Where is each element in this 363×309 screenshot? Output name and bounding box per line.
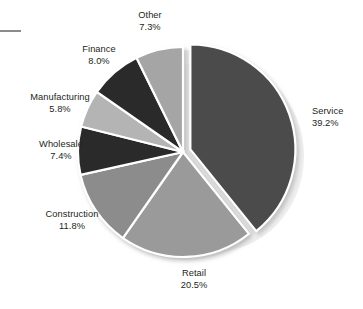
pie-label-other: Other 7.3%: [113, 10, 187, 33]
pie-label-other-name: Other: [113, 10, 187, 22]
pie-label-retail-name: Retail: [158, 268, 230, 280]
pie-label-service-name: Service: [312, 106, 362, 118]
pie-label-service-value: 39.2%: [312, 118, 362, 130]
pie-label-wholesale-value: 7.4%: [20, 151, 102, 163]
pie-chart: Other 7.3% Finance 8.0% Manufacturing 5.…: [0, 0, 363, 309]
pie-label-finance-value: 8.0%: [62, 56, 136, 68]
pie-label-retail-value: 20.5%: [158, 280, 230, 292]
pie-label-wholesale: Wholesale 7.4%: [20, 139, 102, 162]
pie-label-finance: Finance 8.0%: [62, 44, 136, 67]
pie-label-wholesale-name: Wholesale: [20, 139, 102, 151]
pie-label-manufacturing-value: 5.8%: [8, 104, 112, 116]
pie-label-construction-name: Construction: [26, 209, 118, 221]
pie-label-finance-name: Finance: [62, 44, 136, 56]
pie-label-manufacturing: Manufacturing 5.8%: [8, 92, 112, 115]
pie-label-construction: Construction 11.8%: [26, 209, 118, 232]
pie-label-service: Service 39.2%: [312, 106, 362, 129]
pie-label-other-value: 7.3%: [113, 22, 187, 34]
pie-label-retail: Retail 20.5%: [158, 268, 230, 291]
pie-label-manufacturing-name: Manufacturing: [8, 92, 112, 104]
pie-label-construction-value: 11.8%: [26, 221, 118, 233]
